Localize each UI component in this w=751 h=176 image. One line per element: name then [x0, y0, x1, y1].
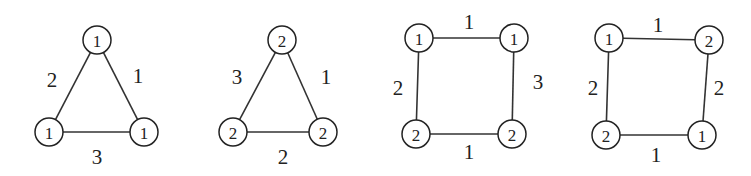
node-label: 1: [698, 127, 707, 146]
graph-square-1-edges: [416, 38, 513, 134]
node-label: 2: [278, 32, 287, 51]
edge-weight-label: 3: [92, 145, 103, 169]
edge-weight-label: 2: [588, 76, 599, 100]
edge-weight-label: 2: [393, 76, 404, 100]
edge-weight-label: 3: [533, 70, 544, 94]
graph-node: 1: [83, 26, 111, 54]
graph-node: 1: [130, 118, 158, 146]
graph-triangle-1-edges: [55, 52, 137, 132]
node-label: 1: [605, 30, 614, 49]
graph-edge: [416, 52, 418, 120]
graph-edge: [240, 52, 276, 119]
edge-weight-label: 1: [321, 65, 332, 89]
edge-weight-label: 2: [47, 68, 58, 92]
edge-weight-label: 1: [464, 140, 475, 164]
node-label: 2: [508, 126, 517, 145]
edge-weight-label: 1: [651, 143, 662, 167]
node-label: 2: [412, 126, 421, 145]
node-label: 2: [319, 124, 328, 143]
edge-weight-label: 2: [278, 145, 289, 169]
graph-node: 2: [219, 118, 247, 146]
edge-weight-label: 1: [133, 64, 144, 88]
node-label: 2: [705, 32, 714, 51]
node-label: 1: [140, 124, 149, 143]
graph-square-2-edges: [606, 38, 708, 135]
node-label: 1: [510, 30, 519, 49]
graph-edge: [512, 52, 513, 120]
graph-node: 1: [688, 121, 716, 149]
graph-edge: [288, 53, 318, 119]
weighted-graphs-diagram: 21331212311221 11122211221221: [0, 0, 751, 176]
graph-edge: [606, 52, 608, 121]
node-label: 1: [415, 30, 424, 49]
graph-edge: [623, 38, 695, 39]
edge-weight-label: 1: [464, 10, 475, 34]
node-label: 2: [229, 124, 238, 143]
graph-node: 2: [402, 120, 430, 148]
node-label: 2: [602, 127, 611, 146]
graph-node: 1: [595, 24, 623, 52]
graph-node: 1: [500, 24, 528, 52]
edge-weight-label: 2: [714, 76, 725, 100]
node-label: 1: [93, 32, 102, 51]
graph-node: 2: [695, 26, 723, 54]
graph-node: 1: [405, 24, 433, 52]
node-label: 1: [45, 124, 54, 143]
graph-edge: [703, 54, 708, 121]
edge-weight-label: 3: [232, 65, 243, 89]
graph-edge: [55, 52, 90, 119]
graph-node: 1: [35, 118, 63, 146]
graph-triangle-2-edges: [240, 52, 318, 132]
graph-node: 2: [268, 26, 296, 54]
graph-node: 2: [309, 118, 337, 146]
graph-node: 2: [592, 121, 620, 149]
graph-node: 2: [498, 120, 526, 148]
edge-weight-label: 1: [653, 13, 664, 37]
